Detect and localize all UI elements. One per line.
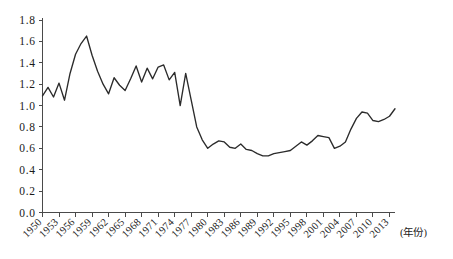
chart-canvas: 1.81.61.41.21.00.80.60.40.20.0 195019531… — [0, 0, 453, 259]
x-tick-marks — [43, 213, 390, 217]
y-tick-label: 0.4 — [19, 164, 35, 176]
x-axis-unit-label: (年份) — [400, 226, 427, 239]
y-axis-group: 1.81.61.41.21.00.80.60.40.20.0 — [19, 14, 42, 219]
y-tick-labels: 1.81.61.41.21.00.80.60.40.20.0 — [19, 14, 35, 219]
line-chart-figure: 1.81.61.41.21.00.80.60.40.20.0 195019531… — [0, 0, 453, 259]
y-tick-label: 0.8 — [19, 121, 35, 133]
x-tick-label: 2013 — [367, 216, 390, 239]
y-tick-marks — [39, 20, 43, 213]
y-tick-label: 0.6 — [19, 142, 35, 154]
y-tick-label: 0.2 — [19, 185, 35, 197]
y-tick-label: 1.6 — [19, 35, 35, 47]
x-axis-group: 1950195319561959196219651968197119741977… — [20, 213, 395, 240]
x-tick-labels: 1950195319561959196219651968197119741977… — [20, 216, 390, 240]
data-series-line — [43, 36, 396, 156]
y-tick-label: 1.0 — [19, 100, 35, 112]
y-tick-label: 1.2 — [19, 78, 35, 90]
y-tick-label: 0.0 — [19, 207, 35, 219]
y-tick-label: 1.8 — [19, 14, 35, 26]
plot-area — [43, 36, 396, 156]
y-tick-label: 1.4 — [19, 57, 35, 69]
